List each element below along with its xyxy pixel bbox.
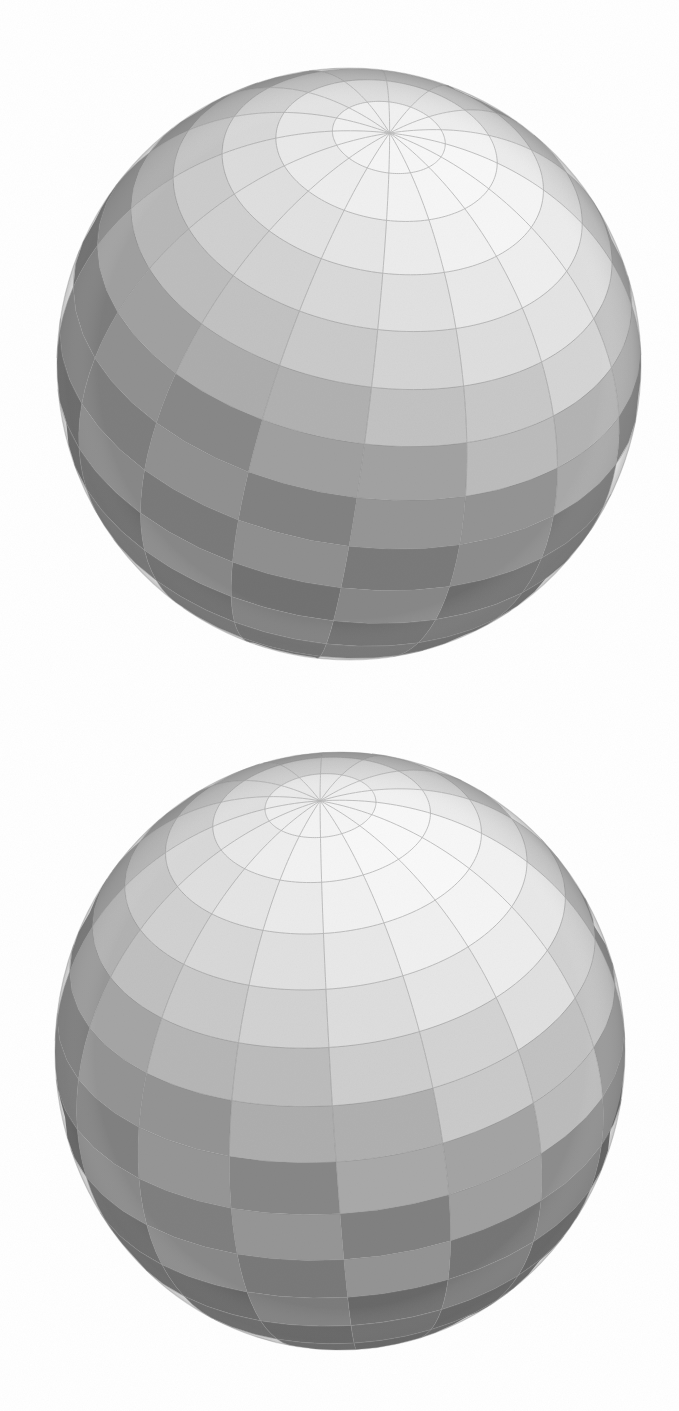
sphere-limb-shading xyxy=(55,752,625,1350)
sphere-bottom-render xyxy=(0,706,679,1411)
sphere-limb-shading xyxy=(57,68,641,660)
sphere-panel-bottom xyxy=(0,706,679,1411)
sphere-top-render xyxy=(0,0,679,706)
sphere-panel-top xyxy=(0,0,679,706)
figure-root: Two shaded spheres with checkerboard UV … xyxy=(0,0,679,1411)
